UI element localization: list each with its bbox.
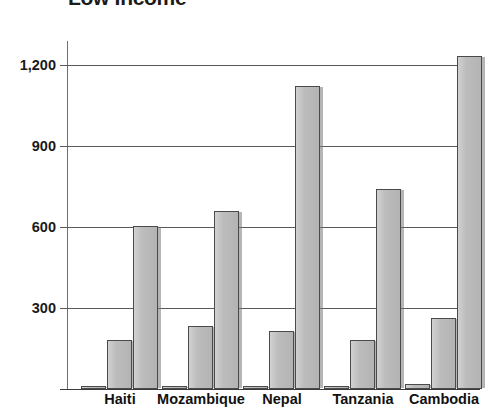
- plot-area: [67, 41, 472, 389]
- bar-mozambique-series-3: [214, 211, 239, 389]
- x-axis-label-haiti: Haiti: [73, 392, 167, 407]
- x-axis-label-mozambique: Mozambique: [154, 392, 248, 407]
- bar-mozambique-series-1: [162, 386, 187, 389]
- y-tick-mark: [60, 308, 67, 309]
- y-tick-label: 300: [32, 301, 56, 316]
- bar-group-nepal: [243, 41, 321, 389]
- bar-group-cambodia: [405, 41, 483, 389]
- y-tick-mark: [60, 146, 67, 147]
- bar-mozambique-series-2: [188, 326, 213, 389]
- y-tick-label: 1,200: [20, 58, 56, 73]
- bar-tanzania-series-3: [376, 189, 401, 389]
- y-tick-label: 600: [32, 220, 56, 235]
- bar-nepal-series-3: [295, 86, 320, 389]
- bar-cambodia-series-2: [431, 318, 456, 389]
- bar-cambodia-series-3: [457, 56, 482, 389]
- bar-nepal-series-2: [269, 331, 294, 389]
- x-axis-label-tanzania: Tanzania: [316, 392, 410, 407]
- bar-group-mozambique: [162, 41, 240, 389]
- bar-haiti-series-1: [81, 386, 106, 389]
- bar-haiti-series-3: [133, 226, 158, 389]
- bar-cambodia-series-1: [405, 384, 430, 389]
- y-tick-label: 900: [32, 139, 56, 154]
- bar-haiti-series-2: [107, 340, 132, 389]
- bar-group-haiti: [81, 41, 159, 389]
- bar-nepal-series-1: [243, 386, 268, 389]
- bar-group-tanzania: [324, 41, 402, 389]
- x-axis-label-cambodia: Cambodia: [397, 392, 489, 407]
- x-axis-label-nepal: Nepal: [235, 392, 329, 407]
- chart-title: Low Income: [68, 0, 186, 10]
- y-tick-mark: [60, 227, 67, 228]
- bar-tanzania-series-2: [350, 340, 375, 389]
- x-axis-line: [60, 389, 480, 390]
- y-tick-mark: [60, 65, 67, 66]
- bar-tanzania-series-1: [324, 386, 349, 389]
